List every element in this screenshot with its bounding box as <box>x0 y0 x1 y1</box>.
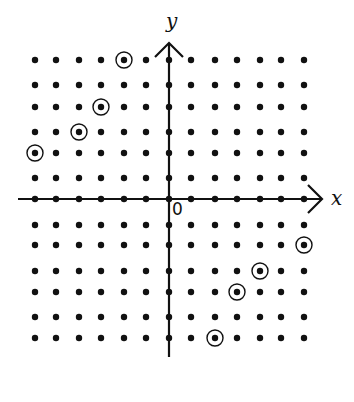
lattice-point <box>278 242 284 248</box>
lattice-point <box>32 82 38 88</box>
lattice-point <box>234 104 240 110</box>
lattice-point <box>212 150 218 156</box>
lattice-point <box>76 129 82 135</box>
lattice-point <box>301 175 307 181</box>
lattice-point <box>234 268 240 274</box>
lattice-diagram: x y 0 <box>0 0 354 402</box>
lattice-point <box>53 335 59 341</box>
lattice-point <box>121 175 127 181</box>
lattice-point <box>98 222 104 228</box>
lattice-point <box>188 314 194 320</box>
lattice-point <box>257 222 263 228</box>
lattice-point <box>53 268 59 274</box>
lattice-point <box>301 242 307 248</box>
lattice-point <box>278 57 284 63</box>
lattice-point <box>188 57 194 63</box>
lattice-point <box>212 129 218 135</box>
lattice-point <box>257 129 263 135</box>
lattice-point <box>76 314 82 320</box>
lattice-point <box>188 289 194 295</box>
lattice-point <box>121 104 127 110</box>
lattice-point <box>278 129 284 135</box>
lattice-point <box>121 82 127 88</box>
lattice-point <box>32 314 38 320</box>
lattice-point <box>98 82 104 88</box>
lattice-point <box>121 242 127 248</box>
lattice-point <box>278 104 284 110</box>
lattice-point <box>76 242 82 248</box>
lattice-point <box>76 150 82 156</box>
lattice-point <box>234 57 240 63</box>
lattice-point <box>53 104 59 110</box>
lattice-point <box>98 268 104 274</box>
lattice-point <box>212 175 218 181</box>
lattice-point <box>234 150 240 156</box>
lattice-point <box>98 242 104 248</box>
lattice-point <box>121 289 127 295</box>
lattice-point <box>98 289 104 295</box>
lattice-point <box>121 129 127 135</box>
lattice-point <box>234 129 240 135</box>
lattice-point <box>278 175 284 181</box>
lattice-point <box>98 129 104 135</box>
lattice-point <box>257 57 263 63</box>
lattice-point <box>257 268 263 274</box>
lattice-point <box>301 82 307 88</box>
lattice-point <box>76 104 82 110</box>
y-axis-label: y <box>165 9 178 33</box>
lattice-point <box>76 289 82 295</box>
lattice-point <box>53 289 59 295</box>
lattice-point <box>301 129 307 135</box>
lattice-point <box>301 314 307 320</box>
lattice-point <box>301 268 307 274</box>
lattice-point <box>53 129 59 135</box>
lattice-point <box>76 175 82 181</box>
lattice-point <box>32 335 38 341</box>
lattice-point <box>76 268 82 274</box>
lattice-point <box>53 57 59 63</box>
lattice-point <box>143 104 149 110</box>
lattice-point <box>234 242 240 248</box>
lattice-point <box>121 150 127 156</box>
lattice-point <box>32 289 38 295</box>
lattice-point <box>188 268 194 274</box>
lattice-point <box>301 289 307 295</box>
lattice-point <box>301 150 307 156</box>
lattice-point <box>121 222 127 228</box>
lattice-point <box>53 314 59 320</box>
lattice-point <box>98 150 104 156</box>
lattice-point <box>143 150 149 156</box>
lattice-point <box>121 57 127 63</box>
origin-label: 0 <box>172 199 183 219</box>
lattice-point <box>257 335 263 341</box>
lattice-point <box>234 335 240 341</box>
lattice-point <box>143 289 149 295</box>
lattice-point <box>188 242 194 248</box>
lattice-point <box>143 242 149 248</box>
lattice-point <box>278 268 284 274</box>
lattice-point <box>143 335 149 341</box>
lattice-point <box>121 268 127 274</box>
lattice-point <box>234 289 240 295</box>
lattice-point <box>278 335 284 341</box>
lattice-point <box>257 104 263 110</box>
lattice-point <box>188 104 194 110</box>
lattice-point <box>121 335 127 341</box>
lattice-point <box>212 104 218 110</box>
lattice-point <box>188 150 194 156</box>
lattice-point <box>53 222 59 228</box>
lattice-point <box>301 57 307 63</box>
lattice-point <box>143 314 149 320</box>
lattice-point <box>98 104 104 110</box>
lattice-point <box>188 175 194 181</box>
lattice-point <box>301 222 307 228</box>
lattice-point <box>98 57 104 63</box>
lattice-point <box>278 314 284 320</box>
lattice-point <box>76 335 82 341</box>
lattice-point <box>53 242 59 248</box>
lattice-point <box>301 335 307 341</box>
lattice-point <box>301 104 307 110</box>
lattice-point <box>234 82 240 88</box>
lattice-point <box>53 175 59 181</box>
lattice-point <box>32 104 38 110</box>
